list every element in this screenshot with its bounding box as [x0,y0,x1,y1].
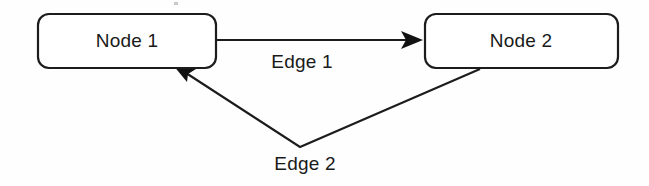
node-1-group[interactable]: Node 1 [38,14,216,68]
edge-2-line [186,69,480,147]
edge-2-label: Edge 2 [274,153,335,174]
scan-artifact-speck [174,2,178,5]
node-2-group[interactable]: Node 2 [425,14,618,68]
edge-1-group[interactable] [217,31,423,49]
node-2-label: Node 2 [490,30,552,51]
diagram-svg: Node 1 Node 2 Edge 1 Edge 2 [0,0,649,186]
edge-1-label: Edge 1 [271,51,332,72]
diagram-canvas: Node 1 Node 2 Edge 1 Edge 2 [0,0,649,186]
edge-2-group[interactable] [173,65,480,147]
node-1-label: Node 1 [96,30,158,51]
